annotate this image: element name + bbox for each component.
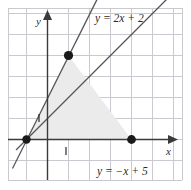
coordinate-plane: y x y = 2x + 2 y = −x + 5 [0, 0, 191, 190]
x-axis-label: x [165, 145, 171, 157]
line-label-lower: y = −x + 5 [96, 165, 148, 178]
line-label-upper: y = 2x + 2 [94, 12, 144, 25]
graph-figure: y x y = 2x + 2 y = −x + 5 [0, 0, 191, 190]
point-intersection [64, 51, 73, 60]
y-axis-arrowhead [43, 10, 52, 20]
point-x-intercept-right [127, 135, 136, 144]
point-x-intercept-left [22, 135, 30, 143]
y-axis-label: y [35, 15, 41, 27]
